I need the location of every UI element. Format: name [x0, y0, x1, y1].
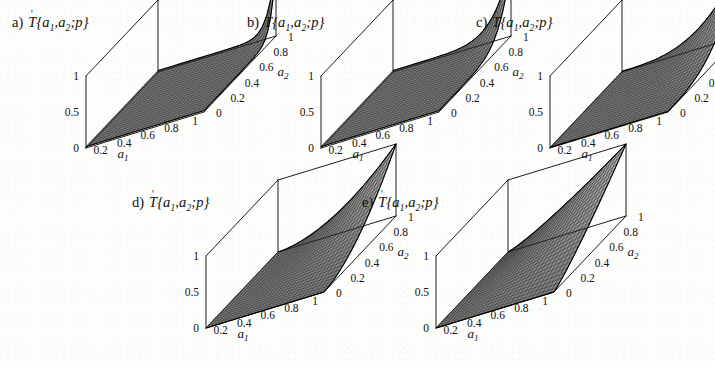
surface-panel-a: a) T{a1,a2;p}00.510.20.40.60.8100.20.40.…	[8, 0, 243, 185]
y-axis-tick-label: 0.6	[609, 241, 624, 253]
z-axis-tick-label: 0.5	[300, 106, 315, 118]
y-axis-tick-label: 0	[680, 107, 686, 119]
x-axis-tick-label: 0.2	[443, 324, 458, 336]
z-axis-tick-label: 0.5	[529, 106, 544, 118]
x-axis-tick-label: 0.8	[164, 122, 179, 134]
y-axis-name: a2	[628, 244, 640, 261]
plot-area: 00.510.20.40.60.8100.20.40.60.81a1a2	[472, 0, 707, 185]
plot-area: 00.510.20.40.60.8100.20.40.60.81a1a2	[243, 0, 478, 185]
surface-panel-d: d) T{a1,a2;p}00.510.20.40.60.8100.20.40.…	[128, 180, 363, 365]
z-axis-tick-label: 1	[308, 70, 314, 82]
y-axis-tick-label: 0	[216, 107, 222, 119]
z-axis-tick-label: 0.5	[415, 286, 430, 298]
x-axis-tick-label: 0.8	[514, 302, 529, 314]
x-axis-tick-label: 0.6	[491, 309, 506, 321]
x-axis-tick-label: 0.8	[399, 122, 414, 134]
x-axis-tick-label: 1	[427, 115, 433, 127]
z-axis-tick-label: 1	[537, 70, 543, 82]
surface-panel-b: b) T{a1,a2;p}00.510.20.40.60.8100.20.40.…	[243, 0, 478, 185]
z-axis-tick-label: 0.5	[185, 286, 200, 298]
y-axis-tick-label: 1	[638, 211, 644, 223]
z-axis-tick-label: 0	[308, 142, 314, 154]
x-axis-tick-label: 1	[312, 295, 318, 307]
x-axis-tick-label: 0.6	[141, 129, 156, 141]
z-axis-tick-label: 1	[193, 250, 199, 262]
x-axis-tick-label: 1	[542, 295, 548, 307]
z-axis-tick-label: 1	[423, 250, 429, 262]
plot-area: 00.510.20.40.60.8100.20.40.60.81a1a2	[8, 0, 243, 185]
x-axis-tick-label: 0.2	[93, 144, 108, 156]
surface-panel-e: e) T{a1,a2;p}00.510.20.40.60.8100.20.40.…	[358, 180, 593, 365]
y-axis-tick-label: 0.8	[624, 226, 639, 238]
z-axis-tick-label: 0	[193, 322, 199, 334]
y-axis-tick-label: 0	[451, 107, 457, 119]
x-axis-tick-label: 0.2	[557, 144, 572, 156]
x-axis-tick-label: 0.2	[213, 324, 228, 336]
surface-panel-c: c) T{a1,a2;p}00.510.20.40.60.8100.20.40.…	[472, 0, 707, 185]
plot-area: 00.510.20.40.60.8100.20.40.60.81a1a2	[358, 180, 593, 365]
y-axis-tick-label: 0	[566, 287, 572, 299]
y-axis-tick-label: 0.4	[595, 257, 610, 269]
z-axis-tick-label: 0	[73, 142, 79, 154]
z-axis-tick-label: 0	[537, 142, 543, 154]
z-axis-tick-label: 0.5	[65, 106, 80, 118]
x-axis-tick-label: 0.6	[261, 309, 276, 321]
x-axis-tick-label: 0.8	[284, 302, 299, 314]
x-axis-tick-label: 0.2	[328, 144, 343, 156]
x-axis-tick-label: 0.8	[628, 122, 643, 134]
z-axis-tick-label: 1	[73, 70, 79, 82]
figure-canvas: a) T{a1,a2;p}00.510.20.40.60.8100.20.40.…	[0, 0, 715, 365]
y-axis-tick-label: 0.2	[694, 92, 709, 104]
z-axis-tick-label: 0	[423, 322, 429, 334]
x-axis-tick-label: 1	[192, 115, 198, 127]
y-axis-tick-label: 0.2	[580, 272, 595, 284]
x-axis-tick-label: 1	[656, 115, 662, 127]
y-axis-tick-label: 0	[336, 287, 342, 299]
plot-area: 00.510.20.40.60.8100.20.40.60.81a1a2	[128, 180, 363, 365]
y-axis-tick-label: 0.4	[709, 77, 715, 89]
x-axis-tick-label: 0.6	[376, 129, 391, 141]
x-axis-tick-label: 0.6	[605, 129, 620, 141]
